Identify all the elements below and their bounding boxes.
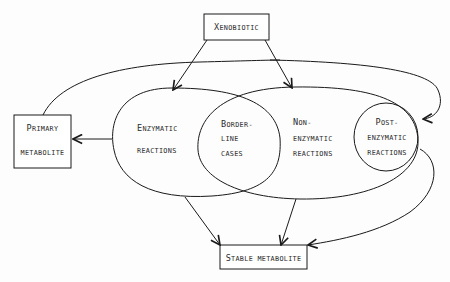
primary-label-line2: METABOLITE [21,149,65,157]
post-enzymatic-label-line1: POST- [376,117,399,127]
edge-xenobiotic-to-non-enzymatic [265,40,292,88]
edge-non-enzymatic-to-stable [281,199,296,245]
primary-label-line1: PRIMARY [27,123,59,133]
primary-metabolite-box [14,115,71,168]
stable-metabolite-label: STABLE METABOLITE [226,253,302,263]
non-enzymatic-label-line3: REACTIONS [293,150,333,158]
non-enzymatic-label-line2: ENZYMATIC [293,135,333,143]
borderline-label-line2: LINE [221,135,239,143]
xenobiotic-label: XENOBIOTIC [214,22,259,32]
borderline-label-line3: CASES [221,150,243,158]
borderline-label-line1: BORDER- [221,119,253,129]
non-enzymatic-label-line1: NON- [293,117,312,127]
edge-xenobiotic-to-post-enzymatic [270,60,440,119]
edge-post-enzymatic-to-stable [308,149,434,245]
edge-primary-to-post-enzymatic [43,60,280,115]
edge-enzymatic-to-stable [185,197,220,245]
enzymatic-reactions-ellipse [113,88,281,197]
enzymatic-label-line2: REACTIONS [137,147,177,155]
metabolism-diagram: XENOBIOTIC PRIMARY METABOLITE ENZYMATIC … [0,0,450,282]
post-enzymatic-label-line3: REACTIONS [367,149,407,157]
edge-xenobiotic-to-enzymatic [173,40,207,90]
post-enzymatic-label-line2: ENZYMATIC [367,134,407,142]
enzymatic-label-line1: ENZYMATIC [137,123,178,133]
